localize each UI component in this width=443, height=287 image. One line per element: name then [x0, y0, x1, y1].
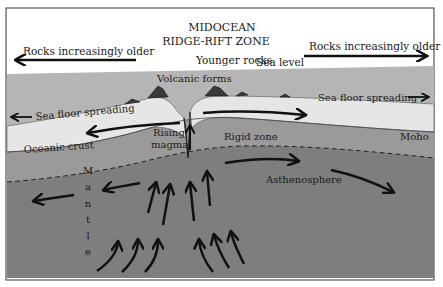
- mantle-letter-n: n: [85, 198, 92, 209]
- asthenosphere-label: Asthenosphere: [265, 174, 342, 185]
- volcanic-forms-label: Volcanic forms: [156, 73, 232, 84]
- midocean-ridge-diagram: MIDOCEAN RIDGE-RIFT ZONE Younger rocks S…: [0, 0, 443, 287]
- mantle-letter-t: t: [86, 214, 90, 225]
- moho-label: Moho: [400, 131, 429, 142]
- mantle-letter-a: a: [85, 181, 91, 192]
- rigid-zone-label: Rigid zone: [224, 131, 278, 142]
- mantle-letter-m: M: [83, 165, 93, 176]
- sea-floor-spreading-right-label: Sea floor spreading: [318, 92, 418, 103]
- rocks-older-left-label: Rocks increasingly older: [23, 45, 155, 57]
- sea-level-label: Sea level: [256, 56, 305, 68]
- rising-magma-label-1: Rising: [153, 127, 185, 138]
- title-line-2: RIDGE-RIFT ZONE: [162, 35, 270, 48]
- rising-magma-label-2: magma: [151, 139, 188, 150]
- rocks-older-right-label: Rocks increasingly older: [309, 40, 441, 52]
- mantle-letter-e: e: [85, 246, 91, 257]
- title-line-1: MIDOCEAN: [188, 21, 256, 34]
- mantle-letter-l: l: [86, 230, 89, 241]
